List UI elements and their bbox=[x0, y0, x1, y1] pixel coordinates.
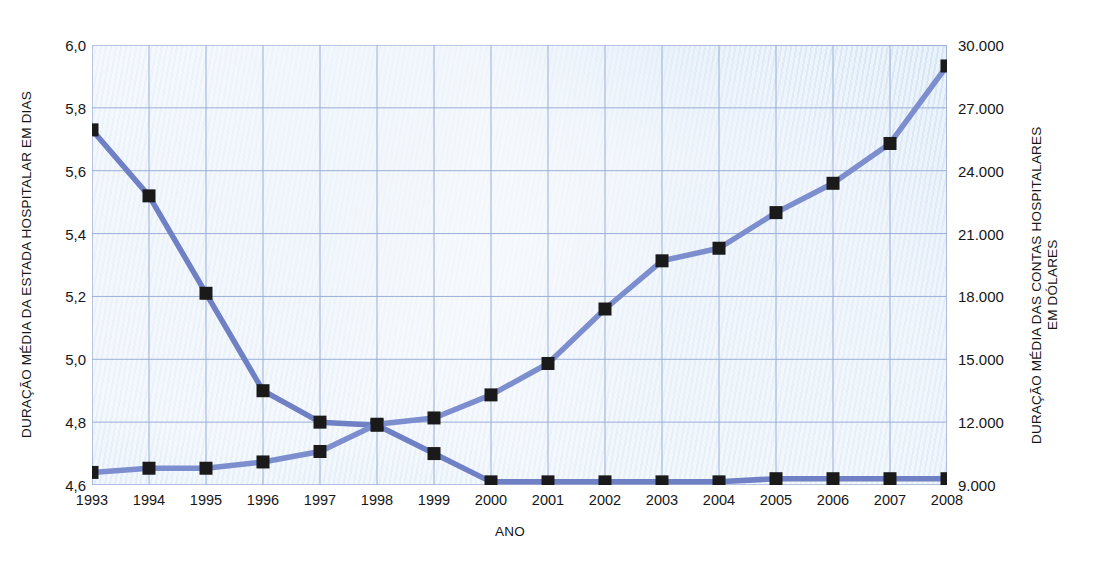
data-point-marker bbox=[542, 475, 555, 485]
y-axis-left-tick-label: 5,8 bbox=[65, 99, 86, 116]
y-axis-left-tick-label: 4,8 bbox=[65, 414, 86, 431]
y-axis-right-title: DURAÇÃO MÉDIA DAS CONTAS HOSPITALARES EM… bbox=[1022, 120, 1068, 450]
data-point-marker bbox=[599, 303, 612, 316]
data-point-marker bbox=[143, 462, 156, 475]
data-series-layer bbox=[92, 45, 947, 485]
data-point-marker bbox=[656, 475, 669, 485]
data-point-marker bbox=[143, 189, 156, 202]
x-axis-tick-label: 2008 bbox=[931, 492, 963, 508]
y-axis-left-tick-label: 5,6 bbox=[65, 162, 86, 179]
x-axis-tick-label: 2003 bbox=[646, 492, 678, 508]
plot-area bbox=[92, 45, 947, 485]
data-point-marker bbox=[770, 206, 783, 219]
data-point-marker bbox=[884, 137, 897, 150]
data-point-marker bbox=[428, 447, 441, 460]
y-axis-left-tick-label: 5,2 bbox=[65, 288, 86, 305]
data-point-marker bbox=[599, 475, 612, 485]
y-axis-left-tick-label: 4,6 bbox=[65, 477, 86, 494]
data-point-marker bbox=[827, 472, 840, 485]
data-point-marker bbox=[827, 177, 840, 190]
y-axis-left-tick-label: 5,4 bbox=[65, 225, 86, 242]
x-axis-tick-label: 2000 bbox=[475, 492, 507, 508]
data-point-marker bbox=[485, 475, 498, 485]
data-point-marker bbox=[656, 254, 669, 267]
x-axis-tick-label: 1997 bbox=[304, 492, 336, 508]
data-point-marker bbox=[713, 475, 726, 485]
data-point-marker bbox=[371, 418, 384, 431]
x-axis-tick-label: 2005 bbox=[760, 492, 792, 508]
series-line bbox=[92, 130, 947, 482]
y-axis-right-tick-label: 27.000 bbox=[958, 99, 1004, 116]
data-point-marker bbox=[200, 287, 213, 300]
y-axis-right-tick-label: 15.000 bbox=[958, 351, 1004, 368]
y-axis-right-tick-label: 30.000 bbox=[958, 37, 1004, 54]
y-axis-right-tick-label: 12.000 bbox=[958, 414, 1004, 431]
x-axis-tick-label: 1999 bbox=[418, 492, 450, 508]
data-point-marker bbox=[257, 455, 270, 468]
series-2 bbox=[92, 59, 947, 478]
x-axis-tick-label: 2006 bbox=[817, 492, 849, 508]
data-point-marker bbox=[485, 388, 498, 401]
x-axis-tick-label: 1998 bbox=[361, 492, 393, 508]
y-axis-left-title: DURAÇÃO MÉDIA DA ESTADA HOSPITALAR EM DI… bbox=[16, 40, 38, 490]
x-axis-tick-label: 1995 bbox=[190, 492, 222, 508]
y-axis-right-tick-label: 9.000 bbox=[958, 477, 996, 494]
data-point-marker bbox=[257, 384, 270, 397]
x-axis-tick-label: 2002 bbox=[589, 492, 621, 508]
data-point-marker bbox=[542, 357, 555, 370]
series-1 bbox=[92, 123, 947, 485]
x-axis-tick-label: 2004 bbox=[703, 492, 735, 508]
data-point-marker bbox=[884, 472, 897, 485]
data-point-marker bbox=[200, 462, 213, 475]
data-point-marker bbox=[770, 472, 783, 485]
x-axis-tick-label: 1993 bbox=[76, 492, 108, 508]
y-axis-left-tick-label: 5,0 bbox=[65, 351, 86, 368]
y-axis-right-tick-label: 24.000 bbox=[958, 162, 1004, 179]
data-point-marker bbox=[941, 472, 948, 485]
x-axis-tick-label: 1996 bbox=[247, 492, 279, 508]
x-axis-title: ANO bbox=[0, 524, 1020, 539]
y-axis-left-tick-label: 6,0 bbox=[65, 37, 86, 54]
data-point-marker bbox=[428, 411, 441, 424]
x-axis-tick-label: 1994 bbox=[133, 492, 165, 508]
data-point-marker bbox=[314, 416, 327, 429]
data-point-marker bbox=[92, 466, 99, 479]
data-point-marker bbox=[941, 59, 948, 72]
x-axis-tick-label: 2001 bbox=[532, 492, 564, 508]
data-point-marker bbox=[713, 242, 726, 255]
y-axis-right-tick-label: 18.000 bbox=[958, 288, 1004, 305]
x-axis-tick-label: 2007 bbox=[874, 492, 906, 508]
data-point-marker bbox=[314, 445, 327, 458]
chart-figure: DURAÇÃO MÉDIA DA ESTADA HOSPITALAR EM DI… bbox=[0, 0, 1099, 565]
data-point-marker bbox=[92, 123, 99, 136]
series-line bbox=[92, 66, 947, 472]
y-axis-right-tick-label: 21.000 bbox=[958, 225, 1004, 242]
